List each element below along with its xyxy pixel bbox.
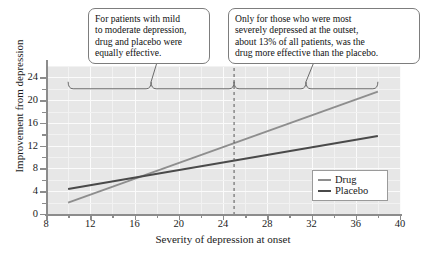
callout-line: Only for those who were most (235, 13, 413, 24)
legend-item-placebo[interactable]: Placebo (318, 185, 382, 196)
callout-line: drug more effective than the placebo. (235, 47, 413, 58)
callout-line: drug and placebo were (95, 36, 203, 47)
callout-line: severely depressed at the outset, (235, 24, 413, 35)
bracket-left (68, 82, 234, 89)
legend-label: Placebo (335, 185, 368, 196)
bracket-right (234, 82, 378, 89)
legend-label: Drug (335, 174, 357, 185)
legend-item-drug[interactable]: Drug (318, 174, 382, 185)
legend[interactable]: DrugPlacebo (312, 170, 388, 201)
callout-right: Only for those who were mostseverely dep… (228, 8, 420, 64)
bracket-right-tail (306, 62, 314, 82)
legend-swatch-icon (318, 190, 331, 192)
legend-swatch-icon (318, 179, 331, 181)
callout-line: about 13% of all patients, was the (235, 36, 413, 47)
chart-figure: 04812162024 81216202428323640 Severity o… (0, 0, 427, 258)
callout-line: to moderate depression, (95, 24, 203, 35)
bracket-left-tail (151, 62, 157, 82)
callout-line: equally effective. (95, 47, 203, 58)
callout-left: For patients with mildto moderate depres… (88, 8, 210, 64)
callout-line: For patients with mild (95, 13, 203, 24)
